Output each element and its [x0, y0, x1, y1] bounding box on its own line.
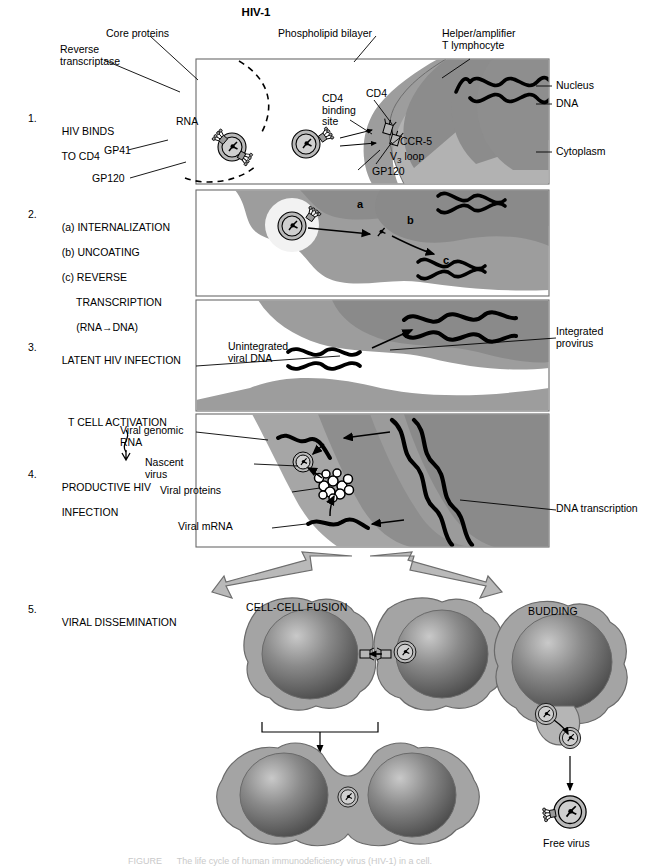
dissemination-arrows [212, 552, 502, 598]
step-2-line-2: (b) UNCOATING [62, 246, 140, 258]
label-gp120-cell: GP120 [372, 166, 405, 178]
marker-c: c [443, 255, 449, 267]
step-number-4: 4. [28, 468, 37, 480]
step-number-1: 1. [28, 112, 37, 124]
step-number-2: 2. [28, 208, 37, 220]
label-free-virus: Free virus [543, 838, 590, 850]
label-reverse-transcriptase: Reversetranscriptase [60, 44, 120, 67]
step-2-line-3: (c) REVERSE [62, 271, 127, 283]
step-label-5: VIRAL DISSEMINATION [50, 603, 177, 641]
step-label-2: (a) INTERNALIZATION (b) UNCOATING (c) RE… [50, 208, 170, 346]
panel-2-cell-artwork [196, 190, 549, 296]
label-cd4-binding-site: CD4bindingsite [322, 93, 356, 128]
panel-4-cell-artwork [196, 414, 549, 547]
step-2-line-4: TRANSCRIPTION [62, 296, 162, 308]
panel-1-cell-artwork [185, 59, 553, 184]
v3-loop-post: loop [401, 150, 424, 162]
v3-loop-v: V [390, 150, 397, 162]
marker-b: b [407, 215, 414, 227]
label-viral-genomic-rna: Viral genomicRNA [120, 425, 183, 448]
label-cytoplasm: Cytoplasm [556, 146, 606, 158]
panel-5-budding-artwork [494, 601, 627, 828]
step-2-line-5: (RNA→DNA) [62, 321, 138, 333]
step-4-line-2: INFECTION [62, 506, 119, 518]
label-dna-transcription: DNA transcription [556, 503, 638, 515]
marker-a: a [357, 199, 363, 211]
label-helper-amplifier-t-lymphocyte: Helper/amplifierT lymphocyte [442, 28, 516, 51]
step-2-line-1: (a) INTERNALIZATION [62, 221, 170, 233]
step-4-line-1: PRODUCTIVE HIV [62, 481, 151, 493]
step-3-line-1: LATENT HIV INFECTION [62, 354, 181, 366]
label-viral-mrna: Viral mRNA [178, 521, 233, 533]
step-label-3: LATENT HIV INFECTION [50, 341, 181, 379]
figure-title: HIV-1 [196, 6, 316, 18]
figure-caption: FIGURE The life cycle of human immunodef… [128, 856, 432, 866]
step-number-5: 5. [28, 603, 37, 615]
label-unintegrated-viral-dna: Unintegratedviral DNA [228, 341, 288, 364]
step-1-line-2: TO CD4 [61, 150, 99, 162]
label-gp120: GP120 [92, 173, 125, 185]
step-1-line-1: HIV BINDS [62, 125, 115, 137]
step-5-line-1: VIRAL DISSEMINATION [62, 616, 177, 628]
step-number-3: 3. [28, 341, 37, 353]
label-cd4: CD4 [366, 88, 387, 100]
label-nascent-virus: Nascentvirus [145, 457, 184, 480]
step-label-4: PRODUCTIVE HIV INFECTION [50, 468, 151, 531]
label-dna: DNA [556, 98, 578, 110]
label-integrated-provirus: Integratedprovirus [556, 326, 603, 349]
heading-budding: BUDDING [528, 605, 578, 617]
label-phospholipid-bilayer: Phospholipid bilayer [278, 28, 372, 40]
label-nucleus: Nucleus [556, 80, 594, 92]
label-core-proteins: Core proteins [106, 28, 169, 40]
label-viral-proteins: Viral proteins [160, 485, 221, 497]
panel-5-fusion-artwork [217, 598, 506, 846]
heading-cell-cell-fusion: CELL-CELL FUSION [246, 601, 347, 613]
label-ccr5: CCR-5 [400, 136, 432, 148]
label-rna: RNA [176, 116, 198, 128]
label-gp41: GP41 [104, 145, 131, 157]
